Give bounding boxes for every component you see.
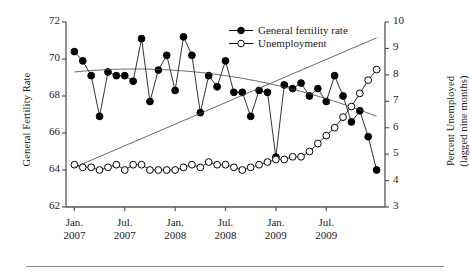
x-tick-label: Jan.2008 [149, 216, 201, 241]
x-tick-month: Jan. [149, 216, 201, 229]
data-point-unemployment [205, 159, 212, 166]
data-point-unemployment [105, 164, 112, 171]
data-point-unemployment [239, 167, 246, 174]
data-point-fertility [79, 57, 86, 64]
data-point-unemployment [314, 140, 321, 147]
right-tick-label: 10 [393, 14, 415, 26]
data-point-fertility [365, 133, 372, 140]
x-tick-month: Jan. [250, 216, 302, 229]
left-tick-label: 68 [34, 88, 60, 100]
right-tick-label: 8 [393, 67, 415, 79]
data-point-fertility [264, 89, 271, 96]
data-point-unemployment [373, 66, 380, 73]
data-point-unemployment [298, 153, 305, 160]
data-point-unemployment [214, 161, 221, 168]
data-point-fertility [298, 80, 305, 87]
data-point-unemployment [331, 124, 338, 131]
x-tick-month: Jan. [48, 216, 100, 229]
right-tick-label: 6 [393, 120, 415, 132]
data-point-unemployment [348, 103, 355, 110]
x-tick-label: Jul.2007 [99, 216, 151, 241]
data-point-fertility [214, 83, 221, 90]
data-point-unemployment [256, 161, 263, 168]
left-tick-label: 72 [34, 14, 60, 26]
data-point-unemployment [189, 161, 196, 168]
x-tick-year: 2007 [99, 229, 151, 242]
x-tick-label: Jul.2009 [300, 216, 352, 241]
x-tick-label: Jan.2007 [48, 216, 100, 241]
right-tick-label: 9 [393, 40, 415, 52]
data-point-unemployment [281, 156, 288, 163]
data-point-fertility [130, 78, 137, 85]
data-point-unemployment [180, 164, 187, 171]
data-point-fertility [340, 93, 347, 100]
data-point-fertility [222, 57, 229, 64]
data-point-unemployment [197, 164, 204, 171]
data-point-unemployment [121, 167, 128, 174]
data-point-fertility [88, 72, 95, 79]
data-point-unemployment [230, 164, 237, 171]
data-point-fertility [155, 67, 162, 74]
x-tick-year: 2007 [48, 229, 100, 242]
data-point-unemployment [155, 167, 162, 174]
x-tick-month: Jul. [99, 216, 151, 229]
data-point-unemployment [323, 132, 330, 139]
data-point-fertility [172, 87, 179, 94]
right-tick-label: 5 [393, 146, 415, 158]
right-tick-label: 3 [393, 199, 415, 211]
data-point-unemployment [138, 161, 145, 168]
x-tick-label: Jul.2008 [200, 216, 252, 241]
x-tick-year: 2008 [149, 229, 201, 242]
data-point-unemployment [113, 161, 120, 168]
data-point-fertility [163, 52, 170, 59]
left-tick-label: 62 [34, 199, 60, 211]
data-point-fertility [314, 85, 321, 92]
data-point-unemployment [130, 161, 137, 168]
data-point-unemployment [172, 167, 179, 174]
x-tick-year: 2008 [200, 229, 252, 242]
data-point-fertility [147, 98, 154, 105]
data-point-fertility [189, 52, 196, 59]
data-point-unemployment [147, 167, 154, 174]
data-point-fertility [180, 33, 187, 40]
data-point-fertility [138, 35, 145, 42]
data-point-fertility [113, 72, 120, 79]
data-point-unemployment [289, 153, 296, 160]
data-point-unemployment [222, 161, 229, 168]
data-point-unemployment [272, 156, 279, 163]
x-tick-month: Jul. [300, 216, 352, 229]
data-point-unemployment [365, 77, 372, 84]
data-point-fertility [121, 72, 128, 79]
data-point-unemployment [163, 167, 170, 174]
data-point-unemployment [356, 90, 363, 97]
x-tick-year: 2009 [300, 229, 352, 242]
series-line-unemployment [74, 70, 376, 170]
left-tick-label: 66 [34, 125, 60, 137]
x-tick-month: Jul. [200, 216, 252, 229]
x-tick-year: 2009 [250, 229, 302, 242]
series-group [71, 33, 380, 173]
data-point-fertility [373, 167, 380, 174]
data-point-fertility [348, 119, 355, 126]
data-point-unemployment [247, 164, 254, 171]
data-point-unemployment [264, 159, 271, 166]
data-point-unemployment [96, 167, 103, 174]
data-point-fertility [247, 113, 254, 120]
data-point-unemployment [88, 164, 95, 171]
data-point-unemployment [340, 114, 347, 121]
data-point-fertility [96, 113, 103, 120]
x-tick-label: Jan.2009 [250, 216, 302, 241]
data-point-fertility [71, 48, 78, 55]
left-tick-label: 64 [34, 162, 60, 174]
data-point-unemployment [306, 148, 313, 155]
data-point-fertility [230, 89, 237, 96]
series-line-fertility [74, 37, 376, 170]
right-tick-label: 7 [393, 93, 415, 105]
caption-divider [26, 266, 444, 267]
data-point-fertility [331, 72, 338, 79]
left-tick-label: 70 [34, 51, 60, 63]
right-tick-label: 4 [393, 173, 415, 185]
